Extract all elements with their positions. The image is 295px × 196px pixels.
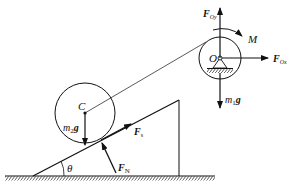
- friction-force-label: Fs: [133, 126, 144, 138]
- angle-arc: [61, 161, 64, 176]
- center-o-label: O: [209, 52, 217, 64]
- center-c-label: C: [78, 100, 86, 112]
- weight-disk-label: m2g: [63, 122, 79, 135]
- angle-label: θ: [67, 162, 73, 174]
- friction-force-arrow: [101, 124, 131, 140]
- moment-label: M: [247, 33, 258, 45]
- ground: [5, 176, 215, 181]
- moment-arc: [213, 29, 242, 36]
- normal-force-arrow: [102, 143, 116, 173]
- rope: [85, 42, 206, 113]
- normal-force-label: FN: [117, 162, 130, 175]
- force-oy-label: FOy: [202, 8, 217, 20]
- free-body-diagram: θ C m2g Fs FN O FOy FOx m1g M: [0, 0, 295, 196]
- force-ox-label: FOx: [272, 53, 287, 65]
- weight-pulley-label: m1g: [225, 94, 241, 107]
